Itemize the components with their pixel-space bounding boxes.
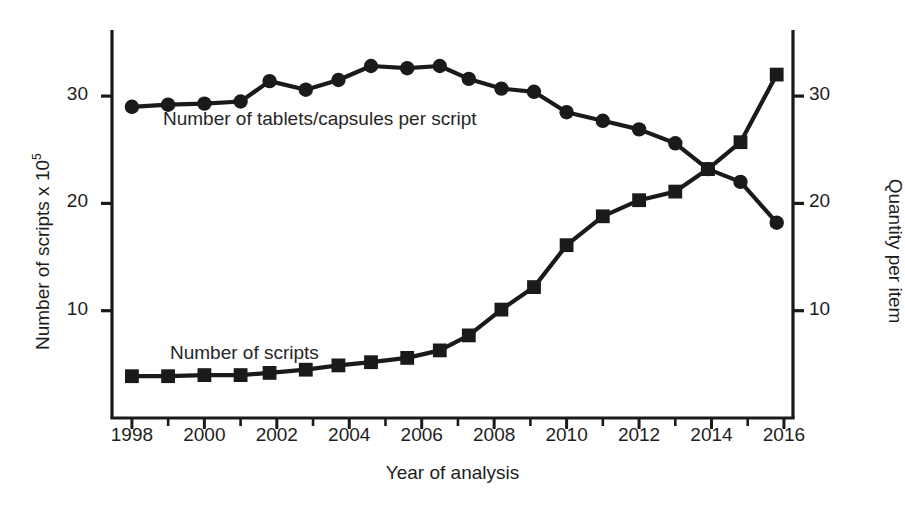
data-point-tablets-2009.1 [527,85,541,99]
data-point-tablets-1999 [161,98,175,112]
data-point-tablets-2000 [197,96,211,110]
series-layer [125,59,784,383]
data-point-tablets-2010 [559,105,573,119]
data-point-scripts-2013 [668,185,682,199]
data-point-scripts-2003.7 [332,359,346,373]
data-point-tablets-2013 [668,136,682,150]
data-point-tablets-2003.7 [331,73,345,87]
data-point-scripts-2006.5 [433,344,447,358]
data-point-scripts-2008.2 [495,303,509,317]
y-tick-label-left-30: 30 [44,83,88,105]
y-tick-label-right-30: 30 [809,83,853,105]
data-point-scripts-2014.8 [734,135,748,149]
x-tick-label-2014: 2014 [676,424,746,446]
data-point-tablets-2007.3 [462,72,476,86]
x-tick-label-2004: 2004 [314,424,384,446]
data-point-scripts-2001 [234,368,248,382]
data-point-scripts-1998 [125,369,139,383]
x-tick-label-2008: 2008 [459,424,529,446]
data-point-scripts-1999 [161,369,175,383]
data-point-tablets-2005.6 [400,61,414,75]
data-point-tablets-2012 [632,122,646,136]
x-tick-label-2012: 2012 [604,424,674,446]
y-tick-label-left-10: 10 [44,298,88,320]
data-point-scripts-2002.8 [299,363,313,377]
x-tick-label-2016: 2016 [749,424,819,446]
data-point-tablets-2002.8 [299,83,313,97]
x-tick-label-1998: 1998 [97,424,167,446]
data-point-tablets-2001.8 [262,74,276,88]
data-point-scripts-2010 [560,238,574,252]
data-point-tablets-2011 [596,114,610,128]
y-tick-label-left-20: 20 [44,190,88,212]
data-point-tablets-2014.8 [733,175,747,189]
data-point-scripts-2007.3 [462,329,476,343]
data-point-scripts-2000 [198,368,212,382]
data-point-scripts-2004.6 [364,355,378,369]
data-point-scripts-2013.9 [701,162,715,176]
data-point-scripts-2012 [632,193,646,207]
x-tick-label-2006: 2006 [387,424,457,446]
data-point-tablets-2006.5 [433,59,447,73]
data-point-tablets-1998 [125,100,139,114]
x-tick-label-2010: 2010 [532,424,602,446]
chart-figure: Number of scripts x 105 Quantity per ite… [0,0,905,505]
data-point-tablets-2008.2 [494,81,508,95]
data-point-scripts-2015.8 [770,68,784,82]
data-point-tablets-2004.6 [364,59,378,73]
data-point-tablets-2015.8 [770,216,784,230]
y-tick-label-right-20: 20 [809,190,853,212]
data-point-tablets-2001 [233,94,247,108]
data-point-scripts-2005.6 [400,351,414,365]
x-tick-label-2000: 2000 [169,424,239,446]
data-point-scripts-2011 [596,209,610,223]
data-point-scripts-2001.8 [263,366,277,380]
x-tick-label-2002: 2002 [242,424,312,446]
y-tick-label-right-10: 10 [809,298,853,320]
series-line-scripts [132,75,777,377]
data-point-scripts-2009.1 [527,280,541,294]
